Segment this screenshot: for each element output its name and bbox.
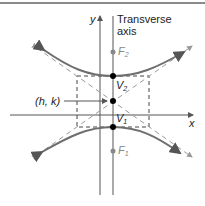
center-label: (h, k) [35, 96, 60, 107]
hyperbola-diagram [0, 0, 205, 206]
x-axis-label: x [189, 118, 195, 129]
hyperbola-lower-branch [42, 127, 180, 153]
transverse-axis-label-line2: axis [117, 26, 137, 37]
y-axis-label: y [90, 14, 96, 25]
focus-f1-label: F1 [118, 145, 129, 159]
vertex-v1-label: V1 [116, 113, 127, 127]
focus-f1 [111, 149, 116, 154]
focus-f2-label: F2 [118, 46, 129, 60]
center-point [110, 98, 116, 104]
transverse-axis-label-line1: Transverse [117, 14, 172, 25]
focus-f2 [111, 50, 116, 55]
vertex-v2-label: V2 [116, 80, 127, 94]
